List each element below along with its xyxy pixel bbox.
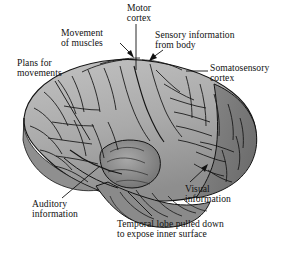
arrowhead-sensory-information [149, 53, 157, 61]
brain-diagram-figure: Motor cortex Movement of muscles Sensory… [0, 0, 299, 256]
label-auditory-information: Auditory information [32, 199, 116, 220]
label-plans-for-movements: Plans for movements [17, 58, 91, 79]
label-visual-information: Visual information [185, 184, 255, 205]
label-motor-cortex: Motor cortex [110, 3, 168, 24]
label-movement-of-muscles: Movement of muscles [61, 28, 147, 49]
label-somatosensory-cortex: Somatosensory cortex [210, 63, 296, 84]
label-sensory-information-from-body: Sensory information from body [155, 30, 265, 51]
label-temporal-lobe-pulled-down: Temporal lobe pulled down to expose inne… [117, 219, 289, 240]
